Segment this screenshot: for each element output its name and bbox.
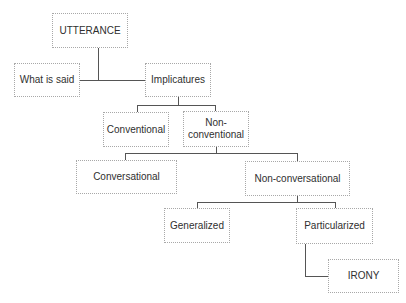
connector-level3-bar: [125, 153, 298, 154]
connector-to-particularized: [335, 202, 336, 208]
node-label: Conversational: [93, 171, 160, 183]
connector-to-non-conventional: [215, 105, 216, 111]
node-particularized: Particularized: [296, 208, 373, 244]
connector-to-generalized: [197, 202, 198, 208]
connector-to-non-conversational: [297, 153, 298, 161]
node-label: UTTERANCE: [59, 25, 120, 37]
node-irony: IRONY: [328, 259, 399, 293]
node-label: Non- conventional: [188, 117, 244, 141]
connector-level4-bar: [197, 202, 336, 203]
connector-to-irony: [305, 276, 328, 277]
connector-particularized-down: [305, 244, 306, 276]
node-label: Particularized: [304, 220, 365, 232]
node-utterance: UTTERANCE: [52, 13, 128, 48]
connector-level1-bar: [80, 80, 145, 81]
node-conversational: Conversational: [76, 160, 177, 194]
node-label: Implicatures: [151, 74, 205, 86]
node-non-conventional: Non- conventional: [183, 111, 249, 147]
node-conventional: Conventional: [103, 112, 169, 147]
node-label: IRONY: [348, 270, 380, 282]
connector-implicatures-down: [178, 97, 179, 105]
connector-utterance-down: [98, 48, 99, 80]
connector-to-conversational: [125, 153, 126, 160]
node-label: Non-conversational: [254, 173, 340, 185]
node-implicatures: Implicatures: [145, 63, 211, 97]
node-what-is-said: What is said: [14, 63, 80, 97]
node-label: Conventional: [107, 124, 165, 136]
node-label: What is said: [20, 74, 74, 86]
node-non-conversational: Non-conversational: [245, 161, 350, 196]
node-generalized: Generalized: [164, 208, 230, 243]
node-label: Generalized: [170, 220, 224, 232]
connector-level2-bar: [137, 105, 216, 106]
connector-to-conventional: [137, 105, 138, 112]
